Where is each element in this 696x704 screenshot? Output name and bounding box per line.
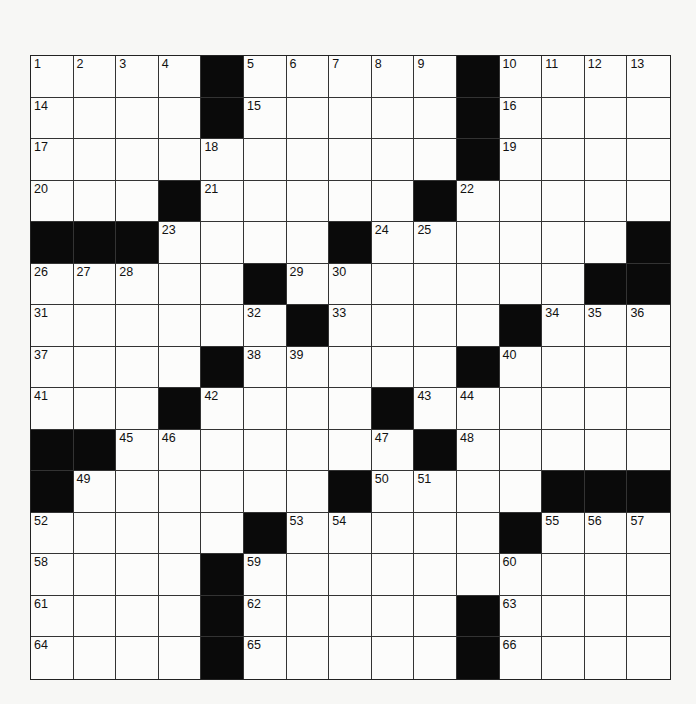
grid-cell[interactable] [542,388,585,430]
grid-cell[interactable] [500,430,543,472]
grid-cell[interactable]: 18 [201,139,244,181]
grid-cell[interactable] [329,181,372,223]
grid-cell[interactable] [116,388,159,430]
grid-cell[interactable]: 32 [244,305,287,347]
grid-cell[interactable]: 13 [627,56,670,98]
grid-cell[interactable] [74,637,117,679]
grid-cell[interactable] [74,139,117,181]
grid-cell[interactable] [116,471,159,513]
grid-cell[interactable] [116,181,159,223]
grid-cell[interactable] [585,596,628,638]
grid-cell[interactable] [201,305,244,347]
grid-cell[interactable] [159,471,202,513]
grid-cell[interactable] [287,596,330,638]
grid-cell[interactable] [627,139,670,181]
grid-cell[interactable] [287,554,330,596]
grid-cell[interactable]: 28 [116,264,159,306]
grid-cell[interactable]: 29 [287,264,330,306]
grid-cell[interactable]: 49 [74,471,117,513]
grid-cell[interactable] [116,139,159,181]
grid-cell[interactable]: 38 [244,347,287,389]
grid-cell[interactable] [585,98,628,140]
grid-cell[interactable] [414,139,457,181]
grid-cell[interactable]: 14 [31,98,74,140]
grid-cell[interactable] [244,181,287,223]
grid-cell[interactable] [329,98,372,140]
grid-cell[interactable]: 58 [31,554,74,596]
grid-cell[interactable] [585,139,628,181]
grid-cell[interactable] [116,305,159,347]
grid-cell[interactable] [585,181,628,223]
grid-cell[interactable]: 35 [585,305,628,347]
grid-cell[interactable] [201,471,244,513]
grid-cell[interactable] [74,388,117,430]
grid-cell[interactable] [627,554,670,596]
grid-cell[interactable] [329,347,372,389]
grid-cell[interactable] [201,222,244,264]
grid-cell[interactable] [542,347,585,389]
grid-cell[interactable] [74,305,117,347]
grid-cell[interactable] [457,513,500,555]
grid-cell[interactable] [329,388,372,430]
grid-cell[interactable] [457,264,500,306]
grid-cell[interactable] [159,513,202,555]
grid-cell[interactable]: 36 [627,305,670,347]
grid-cell[interactable] [414,637,457,679]
grid-cell[interactable]: 12 [585,56,628,98]
grid-cell[interactable]: 7 [329,56,372,98]
grid-cell[interactable] [585,554,628,596]
grid-cell[interactable]: 33 [329,305,372,347]
grid-cell[interactable] [414,305,457,347]
grid-cell[interactable]: 25 [414,222,457,264]
grid-cell[interactable] [500,222,543,264]
grid-cell[interactable] [372,98,415,140]
grid-cell[interactable] [201,430,244,472]
grid-cell[interactable]: 57 [627,513,670,555]
grid-cell[interactable] [287,471,330,513]
grid-cell[interactable] [500,471,543,513]
grid-cell[interactable]: 30 [329,264,372,306]
grid-cell[interactable] [287,388,330,430]
grid-cell[interactable] [116,98,159,140]
grid-cell[interactable] [74,554,117,596]
grid-cell[interactable]: 60 [500,554,543,596]
grid-cell[interactable]: 64 [31,637,74,679]
grid-cell[interactable] [457,471,500,513]
grid-cell[interactable] [74,181,117,223]
grid-cell[interactable] [372,305,415,347]
grid-cell[interactable] [159,264,202,306]
grid-cell[interactable] [372,264,415,306]
grid-cell[interactable] [372,554,415,596]
grid-cell[interactable] [627,596,670,638]
grid-cell[interactable] [159,305,202,347]
grid-cell[interactable] [74,513,117,555]
grid-cell[interactable]: 6 [287,56,330,98]
grid-cell[interactable] [287,430,330,472]
grid-cell[interactable] [159,554,202,596]
grid-cell[interactable] [627,637,670,679]
grid-cell[interactable] [287,98,330,140]
grid-cell[interactable]: 48 [457,430,500,472]
grid-cell[interactable] [201,264,244,306]
grid-cell[interactable] [414,554,457,596]
grid-cell[interactable] [542,139,585,181]
grid-cell[interactable]: 44 [457,388,500,430]
grid-cell[interactable] [159,98,202,140]
grid-cell[interactable] [414,513,457,555]
grid-cell[interactable] [159,347,202,389]
grid-cell[interactable]: 23 [159,222,202,264]
grid-cell[interactable] [414,98,457,140]
grid-cell[interactable] [329,596,372,638]
grid-cell[interactable]: 10 [500,56,543,98]
grid-cell[interactable] [414,264,457,306]
grid-cell[interactable]: 63 [500,596,543,638]
grid-cell[interactable] [500,264,543,306]
grid-cell[interactable] [74,347,117,389]
grid-cell[interactable] [542,637,585,679]
grid-cell[interactable] [542,181,585,223]
grid-cell[interactable] [116,513,159,555]
grid-cell[interactable]: 16 [500,98,543,140]
grid-cell[interactable] [159,139,202,181]
grid-cell[interactable] [500,181,543,223]
grid-cell[interactable] [585,222,628,264]
